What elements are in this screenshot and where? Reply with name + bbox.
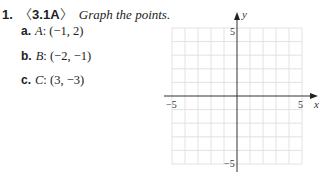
y-axis-arrow-icon — [234, 12, 240, 20]
y-min-label: −5 — [224, 158, 235, 169]
y-axis-label: y — [241, 8, 247, 20]
coordinate-grid[interactable]: −5 5 x 5 −5 y — [0, 0, 333, 190]
y-max-label: 5 — [230, 26, 235, 37]
x-axis-label: x — [313, 98, 319, 110]
x-max-label: 5 — [298, 99, 303, 110]
x-min-label: −5 — [166, 99, 177, 110]
x-axis — [164, 93, 318, 99]
